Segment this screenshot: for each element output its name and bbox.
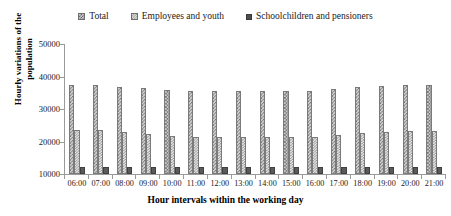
x-axis-tick-labels: 06:0007:0008:0009:0010:0011:0012:0013:00… <box>65 179 446 188</box>
bar-group <box>208 44 232 174</box>
bar-schoolchildren-and-pensioners[interactable] <box>175 167 180 174</box>
bar-group <box>279 44 303 174</box>
x-axis-tick-mark <box>255 175 256 179</box>
x-axis-tick-mark <box>64 175 65 179</box>
bar-group <box>256 44 280 174</box>
y-axis-tick-label: 10000 <box>39 169 60 179</box>
bar-schoolchildren-and-pensioners[interactable] <box>151 167 156 174</box>
x-axis-tick-mark <box>302 175 303 179</box>
bar-schoolchildren-and-pensioners[interactable] <box>80 167 85 174</box>
x-axis-tick-label: 18:00 <box>351 179 375 188</box>
bar-schoolchildren-and-pensioners[interactable] <box>199 167 204 174</box>
y-axis-tick-mark <box>60 109 64 110</box>
bar-group <box>327 44 351 174</box>
x-axis-tick-mark <box>135 175 136 179</box>
x-axis-title: Hour intervals within the working day <box>0 195 451 205</box>
bar-schoolchildren-and-pensioners[interactable] <box>437 167 442 174</box>
bar-schoolchildren-and-pensioners[interactable] <box>389 167 394 174</box>
bar-schoolchildren-and-pensioners[interactable] <box>270 167 275 174</box>
x-axis-tick-mark <box>112 175 113 179</box>
x-axis-tick-label: 09:00 <box>136 179 160 188</box>
bar-group <box>136 44 160 174</box>
bar-schoolchildren-and-pensioners[interactable] <box>127 167 132 174</box>
x-axis-tick-mark <box>159 175 160 179</box>
x-axis-tick-label: 07:00 <box>89 179 113 188</box>
bar-group <box>422 44 446 174</box>
bar-group <box>65 44 89 174</box>
y-axis-tick-label: 30000 <box>39 104 60 114</box>
bar-group <box>89 44 113 174</box>
bar-group <box>398 44 422 174</box>
x-axis-tick-mark <box>207 175 208 179</box>
bar-schoolchildren-and-pensioners[interactable] <box>341 167 346 174</box>
bar-group <box>351 44 375 174</box>
x-axis-tick-label: 21:00 <box>422 179 446 188</box>
y-axis-tick-mark <box>60 142 64 143</box>
x-axis-tick-label: 15:00 <box>279 179 303 188</box>
legend-label-employees-and-youth: Employees and youth <box>142 11 224 22</box>
bar-schoolchildren-and-pensioners[interactable] <box>222 167 227 174</box>
x-axis-tick-mark <box>397 175 398 179</box>
x-axis-tick-label: 06:00 <box>65 179 89 188</box>
bar-schoolchildren-and-pensioners[interactable] <box>413 167 418 174</box>
bar-chart: Total Employees and youth Schoolchildren… <box>0 0 451 216</box>
x-axis-tick-label: 14:00 <box>256 179 280 188</box>
bar-schoolchildren-and-pensioners[interactable] <box>103 167 108 174</box>
legend-swatch-schoolchildren-and-pensioners-icon <box>246 14 252 20</box>
legend-item-total[interactable]: Total <box>78 11 108 22</box>
x-axis-tick-mark <box>374 175 375 179</box>
bar-group <box>232 44 256 174</box>
x-axis-tick-mark <box>183 175 184 179</box>
x-axis-tick-mark <box>88 175 89 179</box>
x-axis-tick-mark <box>350 175 351 179</box>
bar-group <box>160 44 184 174</box>
y-axis-tick-label: 20000 <box>39 137 60 147</box>
bar-groups <box>65 44 446 174</box>
bar-schoolchildren-and-pensioners[interactable] <box>318 167 323 174</box>
y-axis-tick-mark <box>60 77 64 78</box>
x-axis-tick-mark <box>445 175 446 179</box>
x-axis-tick-mark <box>231 175 232 179</box>
x-axis-tick-label: 11:00 <box>184 179 208 188</box>
bar-group <box>184 44 208 174</box>
x-axis-tick-label: 10:00 <box>160 179 184 188</box>
x-axis-tick-label: 17:00 <box>327 179 351 188</box>
y-axis-tick-label: 50000 <box>39 39 60 49</box>
legend-swatch-employees-and-youth-icon <box>131 13 138 20</box>
legend-item-schoolchildren-and-pensioners[interactable]: Schoolchildren and pensioners <box>246 11 373 22</box>
y-axis-tick-mark <box>60 44 64 45</box>
x-axis-tick-mark <box>326 175 327 179</box>
plot-area: 1000020000300004000050000 06:0007:0008:0… <box>0 38 451 188</box>
x-axis-tick-label: 16:00 <box>303 179 327 188</box>
bar-schoolchildren-and-pensioners[interactable] <box>246 167 251 174</box>
x-axis-tick-label: 13:00 <box>232 179 256 188</box>
legend-label-schoolchildren-and-pensioners: Schoolchildren and pensioners <box>256 11 373 22</box>
chart-legend: Total Employees and youth Schoolchildren… <box>0 11 451 22</box>
legend-label-total: Total <box>89 11 108 22</box>
legend-swatch-total-icon <box>78 13 85 20</box>
y-axis-tick-labels: 1000020000300004000050000 <box>26 38 60 174</box>
x-axis-tick-label: 12:00 <box>208 179 232 188</box>
x-axis-tick-mark <box>278 175 279 179</box>
x-axis-tick-label: 20:00 <box>398 179 422 188</box>
bar-schoolchildren-and-pensioners[interactable] <box>365 167 370 174</box>
x-axis-tick-label: 08:00 <box>113 179 137 188</box>
x-axis-tick-mark <box>421 175 422 179</box>
y-axis-tick-label: 40000 <box>39 72 60 82</box>
bar-schoolchildren-and-pensioners[interactable] <box>294 167 299 174</box>
bar-group <box>375 44 399 174</box>
x-axis-tick-label: 19:00 <box>375 179 399 188</box>
bar-group <box>303 44 327 174</box>
bar-group <box>113 44 137 174</box>
legend-item-employees-and-youth[interactable]: Employees and youth <box>131 11 224 22</box>
